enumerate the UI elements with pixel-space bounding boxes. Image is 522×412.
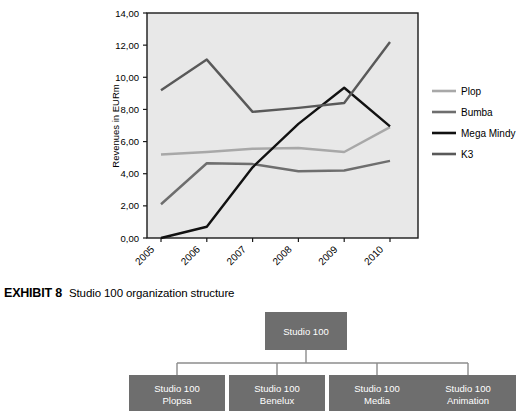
plot-area-background [147, 13, 418, 238]
legend-label-bumba: Bumba [461, 107, 493, 118]
y-tick-label: 2,00 [121, 200, 140, 211]
legend-label-plop: Plop [461, 86, 481, 97]
y-tick-label: 12,00 [115, 40, 139, 51]
x-tick-label: 2009 [316, 243, 340, 267]
org-box-child-3-line2: Animation [447, 395, 489, 406]
org-boxes: Studio 100Studio 100PlopsaStudio 100Bene… [129, 312, 516, 411]
legend-label-mega-mindy: Mega Mindy [461, 128, 515, 139]
org-chart: Studio 100Studio 100PlopsaStudio 100Bene… [0, 306, 522, 412]
x-tick-label: 2006 [179, 243, 203, 267]
org-box-child-1-line1: Studio 100 [254, 383, 299, 394]
org-box-root-line1: Studio 100 [283, 326, 328, 337]
y-tick-label: 6,00 [121, 136, 140, 147]
x-tick-label: 2007 [225, 243, 249, 267]
y-tick-label: 8,00 [121, 104, 140, 115]
y-axis-label: Revenues in EURm [110, 84, 121, 168]
org-connectors [177, 350, 468, 375]
exhibit-title: Studio 100 organization structure [69, 287, 234, 299]
x-tick-label: 2005 [133, 243, 157, 267]
exhibit-caption: EXHIBIT 8 Studio 100 organization struct… [4, 286, 424, 304]
chart-legend: PlopBumbaMega MindyK3 [432, 86, 515, 160]
org-box-child-3-line1: Studio 100 [445, 383, 490, 394]
legend-label-k3: K3 [461, 149, 474, 160]
y-tick-label: 10,00 [115, 72, 139, 83]
org-chart-canvas: Studio 100Studio 100PlopsaStudio 100Bene… [0, 306, 522, 412]
y-tick-label: 14,00 [115, 8, 139, 19]
org-box-child-0-line1: Studio 100 [154, 383, 199, 394]
org-box-child-0-line2: Plopsa [162, 395, 192, 406]
org-box-child-1-line2: Benelux [260, 395, 295, 406]
x-axis-ticks: 200520062007200820092010 [133, 238, 390, 267]
revenue-line-chart: Revenues in EURm 0,002,004,006,008,0010,… [0, 0, 522, 282]
x-tick-label: 2008 [270, 243, 294, 267]
x-tick-label: 2010 [362, 243, 386, 267]
y-tick-label: 0,00 [121, 233, 140, 244]
org-box-child-2-line2: Media [364, 395, 391, 406]
org-box-child-2-line1: Studio 100 [354, 383, 399, 394]
y-tick-label: 4,00 [121, 168, 140, 179]
exhibit-number: EXHIBIT 8 [4, 286, 62, 300]
chart-canvas: Revenues in EURm 0,002,004,006,008,0010,… [0, 0, 522, 282]
